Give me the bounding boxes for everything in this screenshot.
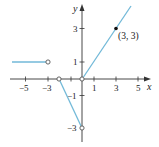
function-graph: −5 −3 1 3 5 x 3 1 −1 −3 y (3, 3) (0, 0, 159, 147)
y-tick-label: 3 (73, 24, 78, 34)
y-axis-label: y (72, 3, 78, 14)
y-axis: 3 1 −1 −3 y (67, 3, 85, 142)
segment-ascending (84, 6, 132, 77)
x-tick-label: 5 (136, 83, 141, 93)
open-circle-icon (57, 77, 61, 81)
x-axis-label: x (146, 81, 152, 92)
x-tick-label: −5 (19, 83, 29, 93)
x-tick-label: 1 (92, 83, 97, 93)
x-tick-label: −3 (42, 83, 52, 93)
function-plot (12, 6, 131, 126)
y-tick-label: −3 (67, 123, 77, 133)
x-tick-label: 3 (114, 83, 119, 93)
open-circle-icon (80, 77, 84, 81)
y-axis-arrow-icon (80, 4, 85, 11)
open-circle-icon (80, 126, 84, 130)
open-circle-icon (46, 60, 50, 64)
segment-descending (60, 81, 81, 126)
filled-point-icon (114, 27, 118, 31)
point-label: (3, 3) (118, 31, 139, 42)
y-tick-label: 1 (73, 57, 78, 67)
